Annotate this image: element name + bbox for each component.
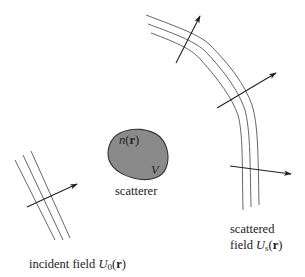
paren: ) — [122, 257, 126, 271]
scatterer-caption: scatterer — [115, 184, 157, 198]
incident-field-caption: incident field U0(r) — [29, 257, 126, 274]
refractive-index-label: n(r) — [119, 133, 139, 147]
scattered-wavefronts — [146, 15, 259, 210]
scattered-arrow-2 — [217, 73, 276, 108]
paren: ) — [135, 133, 139, 147]
volume-label: V — [151, 163, 159, 177]
scattered-arrow-1 — [176, 16, 200, 63]
paren: ) — [278, 238, 282, 252]
incident-propagation-arrow — [27, 184, 77, 207]
caption-text: field — [230, 238, 256, 252]
incident-wavefronts — [15, 151, 70, 240]
caption-text: incident field — [29, 257, 98, 271]
scattered-arrow-3 — [230, 166, 291, 174]
scattered-field-caption: field Us(r) — [230, 238, 283, 255]
field-symbol: U — [256, 238, 265, 252]
scattered-caption-line1: scattered — [230, 222, 274, 236]
